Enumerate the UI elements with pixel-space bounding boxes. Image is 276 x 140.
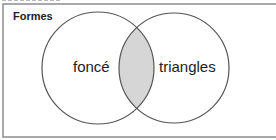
- set-label-fonce: foncé: [73, 58, 110, 75]
- universe-label: Formes: [13, 10, 53, 22]
- set-label-triangles: triangles: [159, 58, 216, 75]
